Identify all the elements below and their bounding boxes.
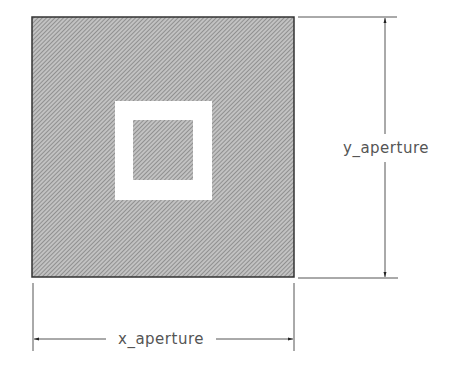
- x-aperture-label: x_aperture: [118, 330, 204, 349]
- inner-hatched-square: [133, 120, 193, 180]
- aperture-diagram: y_aperture x_aperture: [0, 0, 462, 372]
- y-aperture-label: y_aperture: [343, 139, 429, 158]
